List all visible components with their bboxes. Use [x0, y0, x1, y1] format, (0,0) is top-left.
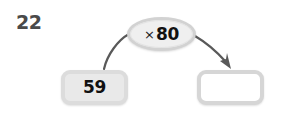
input-value-box: 59 [61, 70, 128, 105]
arrow-operation-to-output [195, 36, 226, 62]
output-answer-box[interactable] [197, 70, 264, 105]
worksheet-problem: 22 × 80 59 [0, 0, 282, 117]
arrow-input-to-operation [104, 34, 129, 69]
operation-oval: × 80 [127, 17, 196, 51]
arrowhead-icon [220, 53, 231, 69]
input-value: 59 [83, 79, 106, 96]
multiplication-symbol: × [144, 28, 155, 41]
operation-oval-inner: × 80 [130, 20, 193, 48]
operation-value: 80 [156, 26, 179, 43]
